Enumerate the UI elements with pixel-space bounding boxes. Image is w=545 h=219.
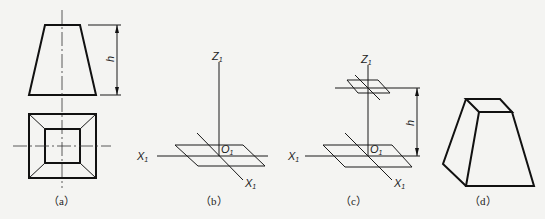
dimension-label-h: h [104, 56, 116, 62]
panel-c: Z1 h O1 X1 X1 （c） [287, 53, 420, 207]
z-axis-label: Z1 [360, 53, 372, 66]
caption-a: （a） [48, 195, 75, 207]
x-axis-right-label: X1 [393, 177, 405, 190]
panel-b: Z1 O1 X1 X1 （b） [136, 50, 268, 207]
panel-d: （d） [443, 99, 534, 207]
caption-c: （c） [340, 195, 367, 207]
x-axis-left-label: X1 [287, 150, 299, 163]
front-view-trapezoid [29, 25, 96, 95]
top-face-parallelogram [335, 75, 420, 100]
caption-d: （d） [469, 195, 497, 207]
panel-a: h （a） [13, 10, 121, 207]
caption-b: （b） [200, 195, 228, 207]
dimension-h-c: h [404, 88, 419, 156]
x-axis-right-label: X1 [244, 177, 256, 190]
z-axis-label: Z1 [211, 50, 223, 63]
technical-drawing-figure: h （a） Z1 O1 X1 X1 （b） Z1 [0, 0, 545, 219]
oblique-pyramid-frustum [443, 99, 534, 186]
x-axis-left-label: X1 [136, 150, 148, 163]
dimension-label-h: h [404, 120, 416, 126]
